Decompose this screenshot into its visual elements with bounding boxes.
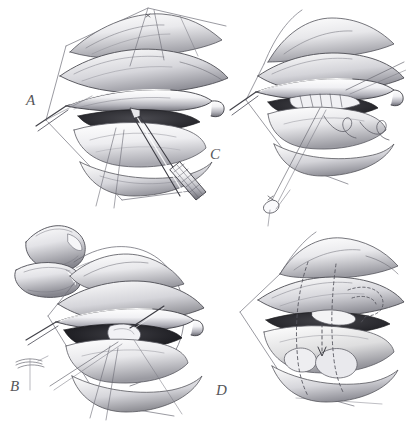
surgical-figure: A bbox=[0, 0, 406, 429]
panel-b-illustration bbox=[14, 218, 236, 429]
knot-detail-inset bbox=[16, 356, 48, 390]
panel-d-illustration bbox=[232, 228, 406, 429]
panel-d-label: D bbox=[216, 382, 227, 399]
panel-a-label: A bbox=[26, 92, 36, 109]
panel-c-illustration bbox=[228, 4, 406, 234]
panel-c bbox=[228, 4, 406, 234]
panel-a bbox=[30, 0, 240, 215]
panel-a-illustration bbox=[30, 0, 240, 215]
panel-c-label: C bbox=[210, 146, 221, 163]
panel-b-label: B bbox=[10, 378, 20, 395]
panel-b bbox=[14, 218, 236, 429]
panel-d bbox=[232, 228, 406, 429]
